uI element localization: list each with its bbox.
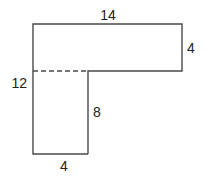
label-bottom-width: 4 (60, 158, 68, 174)
l-shape-diagram: 14 4 12 8 4 (0, 0, 210, 179)
label-top-width: 14 (100, 7, 116, 23)
l-shape-outline (33, 24, 182, 154)
label-left-height: 12 (11, 75, 27, 91)
label-inner-height: 8 (93, 104, 101, 120)
label-right-height: 4 (187, 40, 195, 56)
